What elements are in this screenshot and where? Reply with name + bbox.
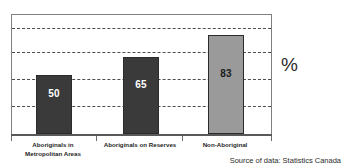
category-label-line2: Metropolitan Areas	[10, 149, 96, 158]
plot-area: 50 65 83	[11, 14, 272, 135]
bar-non-aboriginal[interactable]: 83	[208, 35, 244, 134]
bar-aboriginals-metropolitan[interactable]: 50	[36, 75, 72, 135]
category-label-line1: Aboriginals on Reserves	[104, 141, 177, 148]
source-note: Source of data: Statistics Canada	[230, 156, 341, 165]
category-label-aboriginals-metropolitan: Aboriginals in Metropolitan Areas	[10, 140, 96, 158]
bar-value-label: 50	[48, 88, 60, 99]
bar-chart: 50 65 83 % Aboriginals in Metropolitan A…	[0, 0, 345, 167]
category-label-line1: Aboriginals in	[32, 141, 73, 148]
y-axis-unit-label: %	[281, 54, 298, 76]
category-label-aboriginals-reserves: Aboriginals on Reserves	[97, 140, 183, 149]
category-label-non-aboriginal: Non-Aboriginal	[182, 140, 268, 149]
gridline-80	[12, 28, 271, 29]
bar-value-label: 65	[135, 79, 147, 90]
plot-inner: 50 65 83	[12, 15, 271, 134]
category-label-line1: Non-Aboriginal	[203, 141, 248, 148]
bar-aboriginals-reserves[interactable]: 65	[123, 57, 159, 134]
bar-value-label: 83	[220, 68, 232, 79]
x-axis-line	[11, 134, 272, 136]
